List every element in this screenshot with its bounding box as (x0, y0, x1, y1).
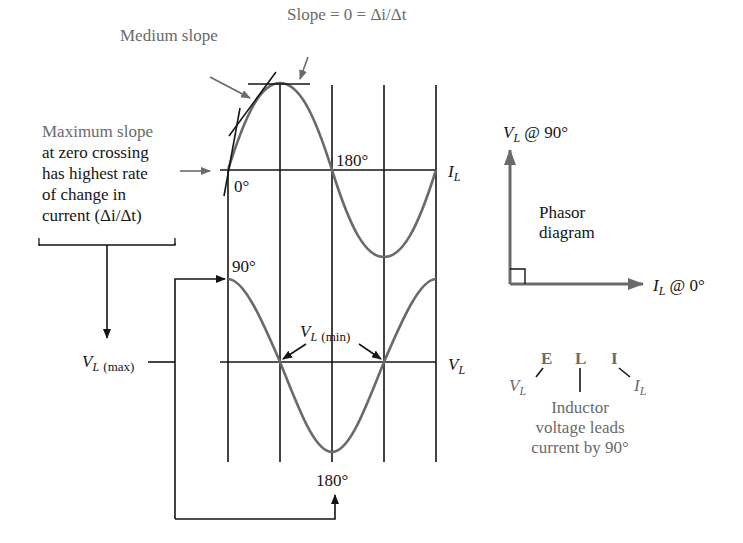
max-slope-line-5: current (Δi/Δt) (42, 205, 153, 226)
eli-letter-l: L (575, 350, 586, 367)
vmax-label: VL (max) (82, 353, 134, 373)
current-180-deg-label: 180° (336, 152, 368, 169)
max-slope-text-block: Maximum slope at zero crossing has highe… (42, 121, 153, 226)
eli-caption-line-2: voltage leads (518, 418, 642, 438)
voltage-axis-label: VL (448, 356, 465, 376)
current-0-deg-label: 0° (234, 178, 249, 195)
current-axis-subscript: L (454, 170, 461, 184)
eli-e-connector (536, 368, 543, 377)
voltage-axis-symbol: V (448, 355, 458, 374)
vmax-subscript: L (92, 360, 99, 374)
voltage-180-deg-label: 180° (316, 472, 348, 489)
vmin-subscript: L (310, 330, 317, 344)
vmin-label: VL (min) (300, 323, 350, 343)
eli-i-connector (619, 368, 630, 377)
eli-letter-i: I (611, 350, 618, 367)
slope-zero-label: Slope = 0 = Δi/Δt (287, 6, 406, 23)
vmax-to-90-connector (175, 279, 225, 519)
eli-caption-line-3: current by 90° (518, 438, 642, 458)
eli-vl-subscript: L (519, 384, 526, 398)
vmin-symbol: V (300, 322, 310, 341)
eli-il-label: IL (634, 377, 646, 397)
eli-caption: Inductor voltage leads current by 90° (518, 398, 642, 458)
current-axis-label: IL (448, 163, 460, 183)
phasor-vl-angle: @ 90° (524, 123, 568, 142)
phasor-title: Phasor diagram (539, 203, 595, 243)
phasor-il-label: IL @ 0° (653, 277, 705, 297)
max-slope-line-3: has highest rate (42, 163, 153, 184)
eli-letter-e: E (541, 350, 552, 367)
vmax-to-180-connector (175, 495, 335, 519)
right-angle-marker (510, 269, 525, 284)
vmin-right-arrow (359, 344, 381, 359)
eli-vl-symbol: V (509, 376, 519, 395)
phasor-il-angle: @ 0° (670, 276, 705, 295)
medium-slope-arrow (210, 77, 250, 98)
waveform-diagram-canvas (0, 0, 743, 543)
max-slope-line-2: at zero crossing (42, 142, 153, 163)
eli-vl-label: VL (509, 377, 526, 397)
voltage-90-deg-label: 90° (232, 258, 256, 275)
medium-slope-label: Medium slope (120, 27, 218, 44)
max-slope-line-1: Maximum slope (42, 121, 153, 142)
vmin-paren: (min) (321, 329, 350, 344)
slope-zero-arrow (300, 57, 308, 79)
phasor-vl-label: VL @ 90° (503, 124, 568, 144)
phasor-title-line-2: diagram (539, 223, 595, 243)
vmin-left-arrow (283, 344, 306, 359)
phasor-title-line-1: Phasor (539, 203, 595, 223)
slope-zero-text: Slope = 0 = Δi/Δt (287, 5, 406, 24)
phasor-il-subscript: L (659, 284, 666, 298)
phasor-vl-symbol: V (503, 123, 513, 142)
phasor-vl-subscript: L (513, 131, 520, 145)
voltage-axis-subscript: L (458, 363, 465, 377)
max-slope-line-4: of change in (42, 184, 153, 205)
vmax-symbol: V (82, 352, 92, 371)
eli-il-subscript: L (640, 384, 647, 398)
vmax-paren: (max) (103, 359, 134, 374)
vertical-grid-lines (228, 83, 436, 462)
eli-caption-line-1: Inductor (518, 398, 642, 418)
